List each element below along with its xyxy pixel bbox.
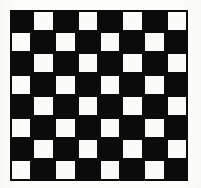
board-cell xyxy=(55,31,77,52)
board-cell xyxy=(121,138,143,159)
board-cell xyxy=(10,96,32,117)
board-cell xyxy=(121,53,143,74)
board-cell xyxy=(10,160,32,181)
board-cell xyxy=(10,31,32,52)
board-cell xyxy=(55,96,77,117)
board-cell xyxy=(77,138,99,159)
board-cell xyxy=(10,138,32,159)
board-cell xyxy=(99,160,121,181)
board-cell xyxy=(166,31,188,52)
board-cell xyxy=(77,53,99,74)
board-cell xyxy=(144,31,166,52)
board-cell xyxy=(144,117,166,138)
board-cell xyxy=(55,117,77,138)
board-cell xyxy=(166,117,188,138)
board-cell xyxy=(32,160,54,181)
board-cell xyxy=(144,74,166,95)
board-cell xyxy=(77,10,99,31)
board-cell xyxy=(166,96,188,117)
board-cell xyxy=(121,10,143,31)
board-cell xyxy=(32,138,54,159)
board-cell xyxy=(77,96,99,117)
board-cell xyxy=(166,138,188,159)
board-cell xyxy=(121,74,143,95)
board-cell xyxy=(99,117,121,138)
board-cell xyxy=(32,53,54,74)
board-cell xyxy=(144,96,166,117)
board-cell xyxy=(10,10,32,31)
board-cell xyxy=(55,138,77,159)
board-cell xyxy=(10,53,32,74)
board-cell xyxy=(99,138,121,159)
board-cell xyxy=(10,117,32,138)
board-cell xyxy=(166,10,188,31)
board-cell xyxy=(32,96,54,117)
board-cell xyxy=(55,10,77,31)
board-cell xyxy=(121,117,143,138)
board-cell xyxy=(32,117,54,138)
board-cell xyxy=(144,10,166,31)
board-cell xyxy=(32,10,54,31)
board-cell xyxy=(10,74,32,95)
board-cell xyxy=(99,31,121,52)
board-cell xyxy=(99,10,121,31)
board-cell xyxy=(77,74,99,95)
image-canvas xyxy=(0,0,201,188)
board-cell xyxy=(55,160,77,181)
board-cell xyxy=(144,160,166,181)
board-cell xyxy=(121,160,143,181)
board-cell xyxy=(55,53,77,74)
board-cell xyxy=(121,31,143,52)
board-cell xyxy=(166,53,188,74)
board-cell xyxy=(77,160,99,181)
board-cell xyxy=(121,96,143,117)
board-cell xyxy=(144,53,166,74)
board-cell xyxy=(99,74,121,95)
checkerboard xyxy=(10,10,188,181)
board-cell xyxy=(166,160,188,181)
board-cell xyxy=(77,31,99,52)
board-cell xyxy=(99,96,121,117)
board-cell xyxy=(55,74,77,95)
board-cell xyxy=(166,74,188,95)
board-cell xyxy=(32,31,54,52)
board-cell xyxy=(144,138,166,159)
board-cell xyxy=(99,53,121,74)
board-cell xyxy=(32,74,54,95)
board-cell xyxy=(77,117,99,138)
